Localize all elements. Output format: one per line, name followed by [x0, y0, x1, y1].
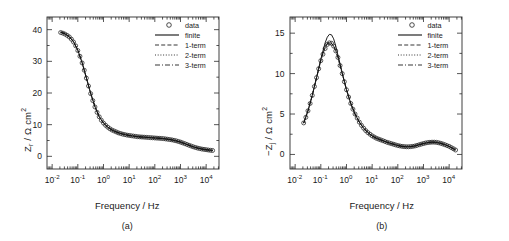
- legend-swatch-marker: [154, 20, 180, 30]
- legend-swatch-marker: [397, 20, 423, 30]
- x-tick-label: 10-1: [70, 173, 85, 185]
- y-tick-label: 0: [267, 149, 285, 159]
- legend-item-data: data: [154, 20, 206, 30]
- panel-a-plot-legend: datafinite1-term2-term3-term: [154, 20, 206, 70]
- legend-swatch-dotted: [397, 50, 423, 60]
- legend-label: finite: [180, 31, 200, 40]
- x-tick-label: 104: [442, 173, 455, 185]
- y-tick-label: 10: [267, 69, 285, 79]
- panel-a-plot-area: 10-210-1100101102103104010203040datafini…: [46, 16, 220, 170]
- x-tick-label: 102: [391, 173, 404, 185]
- y-tick-label: 15: [267, 28, 285, 38]
- y-tick-label: 40: [24, 25, 42, 35]
- legend-swatch-solid: [154, 30, 180, 40]
- legend-item-3-term: 3-term: [154, 60, 206, 70]
- x-tick-label: 10-2: [287, 173, 302, 185]
- panel-b-y-axis-title: −Zj / Ω cm2: [261, 52, 275, 156]
- legend-label: 3-term: [423, 61, 449, 70]
- x-tick-label: 104: [200, 173, 213, 185]
- legend-item-2-term: 2-term: [154, 50, 206, 60]
- legend-label: 3-term: [180, 61, 206, 70]
- legend-label: 2-term: [180, 51, 206, 60]
- legend-item-1-term: 1-term: [397, 40, 449, 50]
- x-tick-label: 10-2: [45, 173, 60, 185]
- legend-label: data: [423, 21, 442, 30]
- legend-item-1-term: 1-term: [154, 40, 206, 50]
- panel-b-x-axis-title: Frequency / Hz: [255, 200, 509, 211]
- y-tick-label: 20: [24, 88, 42, 98]
- legend-swatch-dashdot: [154, 60, 180, 70]
- x-tick-label: 10-1: [313, 173, 328, 185]
- x-tick-label: 100: [340, 173, 353, 185]
- panel-a-y-axis-title: Zr / Ω cm2: [20, 52, 34, 152]
- legend-label: 2-term: [423, 51, 449, 60]
- panel-a-x-axis-title: Frequency / Hz: [0, 200, 255, 211]
- panel-a-caption: (a): [0, 221, 255, 231]
- y-tick-label: 5: [267, 109, 285, 119]
- x-tick-label: 100: [97, 173, 110, 185]
- legend-label: 1-term: [180, 41, 206, 50]
- legend-label: 1-term: [423, 41, 449, 50]
- legend-swatch-dashed: [154, 40, 180, 50]
- legend-label: finite: [423, 31, 443, 40]
- x-tick-label: 103: [174, 173, 187, 185]
- legend-item-data: data: [397, 20, 449, 30]
- legend-swatch-dotted: [154, 50, 180, 60]
- legend-label: data: [180, 21, 199, 30]
- x-tick-label: 102: [148, 173, 161, 185]
- panel-b-plot-area: 10-210-1100101102103104051015datafinite1…: [289, 16, 463, 170]
- panel-b: −Zj / Ω cm2 10-210-110010110210310405101…: [255, 0, 509, 241]
- legend-swatch-solid: [397, 30, 423, 40]
- y-tick-label: 30: [24, 56, 42, 66]
- figure-two-panel-impedance: Zr / Ω cm2 10-210-1100101102103104010203…: [0, 0, 509, 241]
- panel-b-plot-legend: datafinite1-term2-term3-term: [397, 20, 449, 70]
- y-tick-label: 10: [24, 120, 42, 130]
- legend-item-3-term: 3-term: [397, 60, 449, 70]
- x-tick-label: 103: [417, 173, 430, 185]
- legend-swatch-dashdot: [397, 60, 423, 70]
- x-tick-label: 101: [123, 173, 136, 185]
- legend-swatch-dashed: [397, 40, 423, 50]
- legend-item-2-term: 2-term: [397, 50, 449, 60]
- y-tick-label: 0: [24, 151, 42, 161]
- panel-b-caption: (b): [255, 221, 509, 231]
- legend-item-finite: finite: [397, 30, 449, 40]
- legend-item-finite: finite: [154, 30, 206, 40]
- panel-a: Zr / Ω cm2 10-210-1100101102103104010203…: [0, 0, 255, 241]
- x-tick-label: 101: [365, 173, 378, 185]
